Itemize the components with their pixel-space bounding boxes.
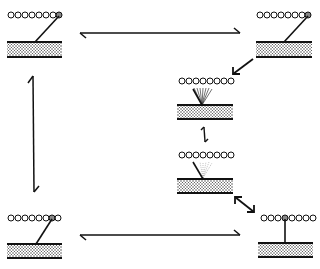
bead-chain [261,215,316,221]
membrane [7,244,62,258]
state-mid-right-lower [177,152,234,193]
bead-chain [179,78,234,84]
membrane [256,42,312,57]
transition-diagonal [235,197,254,212]
membrane [177,179,233,193]
transition-bottom [80,230,240,240]
lever [193,162,203,179]
state-top-right [256,12,312,57]
membrane [7,42,62,57]
membrane [258,243,313,257]
transition-top [80,28,240,38]
transition-mid [201,127,208,142]
state-bottom-left [7,215,62,258]
bead-chain [179,152,234,158]
state-mid-right-upper [177,78,234,119]
lever [36,219,52,244]
cycle-diagram [0,0,320,269]
lever [35,16,59,42]
membrane [177,105,233,119]
state-top-left [7,12,62,57]
bead-chain [8,12,62,18]
transition-left [28,76,39,192]
bead-chain [257,12,311,18]
transition-arrow-down-left [233,59,253,74]
lever [284,16,308,42]
state-bottom-right [258,215,316,257]
bead-chain [8,215,61,221]
